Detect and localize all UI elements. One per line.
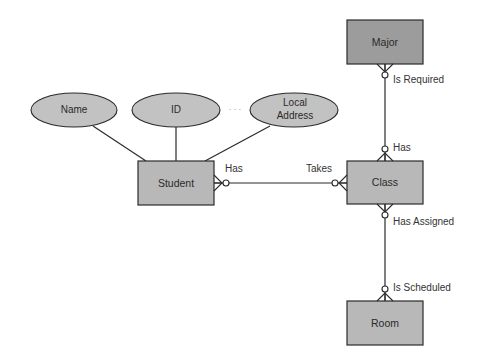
relationship-label-class-takes: Takes	[306, 163, 332, 174]
entity-major-label: Major	[372, 36, 399, 48]
entity-room-label: Room	[371, 317, 399, 329]
crows-foot-class-bottom-zero-many-icon	[377, 204, 393, 218]
crows-foot-major-zero-many-icon	[377, 64, 393, 78]
attribute-name[interactable]: Name	[31, 93, 117, 127]
entity-student[interactable]: Student	[138, 161, 214, 205]
relationship-label-class-has: Has	[393, 142, 411, 153]
entity-student-label: Student	[158, 177, 194, 189]
entity-class[interactable]: Class	[347, 161, 423, 204]
attribute-local-address[interactable]: Local Address	[250, 93, 338, 127]
crows-foot-class-left-zero-many-icon	[332, 175, 347, 191]
local-address-attribute-link	[205, 126, 270, 161]
relationship-label-has-assigned: Has Assigned	[393, 216, 454, 227]
entity-room[interactable]: Room	[347, 301, 423, 345]
crows-foot-room-zero-many-icon	[377, 286, 393, 301]
er-diagram: Name ID · · · Local Address Major Studen…	[0, 0, 482, 363]
crows-foot-student-zero-many-icon	[214, 175, 229, 191]
relationship-label-is-scheduled: Is Scheduled	[393, 282, 451, 293]
attribute-local-address-label-line2: Address	[277, 110, 314, 121]
attribute-id-label: ID	[171, 104, 181, 115]
entity-major[interactable]: Major	[347, 20, 423, 64]
attribute-ellipsis: · · ·	[229, 105, 241, 114]
relationship-label-student-has: Has	[225, 163, 243, 174]
attribute-local-address-label-line1: Local	[283, 97, 307, 108]
attribute-id[interactable]: ID	[132, 93, 220, 127]
entity-class-label: Class	[372, 176, 398, 188]
relationship-label-is-required: Is Required	[393, 74, 444, 85]
name-attribute-link	[93, 126, 146, 161]
crows-foot-class-top-zero-many-icon	[377, 146, 393, 161]
attribute-name-label: Name	[61, 104, 88, 115]
